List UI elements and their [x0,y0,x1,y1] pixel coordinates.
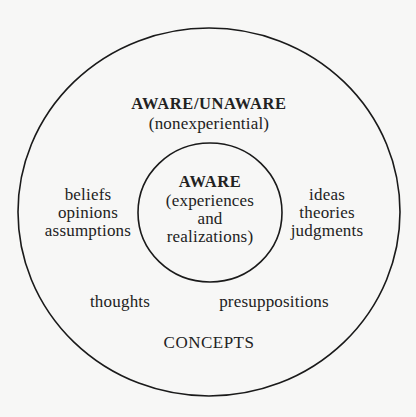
concept-label: ideas [291,186,364,204]
concept-label-presuppositions: presuppositions [219,293,329,311]
left-concept-group: beliefs opinions assumptions [45,186,131,240]
inner-title: AWARE [179,173,242,191]
concept-label: theories [291,204,364,222]
concept-label: assumptions [45,222,131,240]
inner-line: and [166,210,254,228]
outer-title: AWARE/UNAWARE [131,95,286,113]
concentric-awareness-diagram: AWARE/UNAWARE (nonexperiential) AWARE (e… [0,0,416,417]
right-concept-group: ideas theories judgments [291,186,364,240]
inner-line: realizations) [166,228,254,246]
inner-line: (experiences [166,192,254,210]
concept-label: beliefs [45,186,131,204]
outer-subtitle: (nonexperiential) [149,115,269,133]
concept-label: judgments [291,222,364,240]
footer-concepts: CONCEPTS [164,334,255,352]
concept-label: opinions [45,204,131,222]
inner-description: (experiences and realizations) [166,192,254,246]
concept-label-thoughts: thoughts [90,293,150,311]
